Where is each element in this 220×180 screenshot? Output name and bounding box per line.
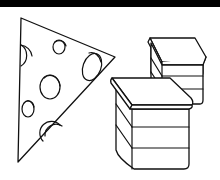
cheese-wedge-icon [18, 18, 115, 162]
line-art-illustration [0, 0, 220, 180]
large-box-icon [111, 78, 193, 169]
